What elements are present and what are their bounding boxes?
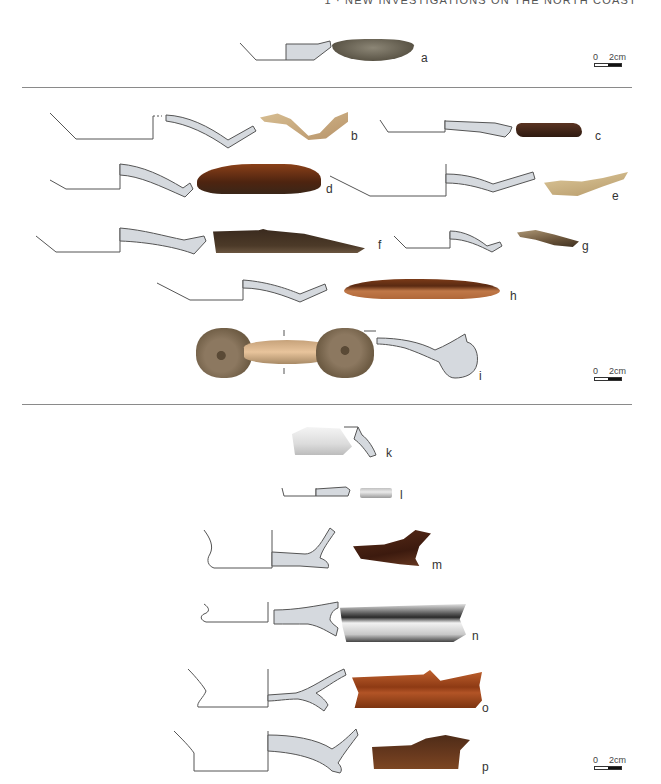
- photo-a: [332, 39, 414, 61]
- scale-bar-top: 0 2cm: [593, 52, 633, 72]
- photo-h: [344, 279, 500, 299]
- label-m: m: [432, 558, 442, 572]
- profile-drawing-i: [375, 330, 485, 380]
- section-divider: [22, 87, 632, 88]
- profile-drawing-k: [342, 425, 382, 459]
- profile-drawing-c: [380, 118, 520, 144]
- label-a: a: [421, 51, 428, 65]
- profile-drawing-g: [392, 226, 512, 254]
- running-head: 1 · NEW INVESTIGATIONS ON THE NORTH COAS…: [324, 0, 637, 6]
- scale-bar-middle: 0 2cm: [593, 366, 633, 386]
- label-l: l: [400, 488, 403, 502]
- label-k: k: [386, 446, 392, 460]
- photo-d: [197, 164, 321, 194]
- photo-c: [516, 123, 582, 137]
- photo-f: [213, 229, 365, 253]
- label-e: e: [612, 189, 619, 203]
- label-g: g: [582, 239, 589, 253]
- section-divider: [22, 404, 632, 405]
- photo-n: [340, 604, 466, 642]
- scale-bar-graphic: [594, 63, 622, 67]
- photo-g: [517, 229, 579, 247]
- scale-bar-graphic: [594, 766, 622, 770]
- profile-drawing-e: [328, 162, 538, 200]
- label-i: i: [479, 369, 482, 383]
- label-f: f: [378, 238, 381, 252]
- photo-o: [352, 670, 482, 708]
- scale-bar-bottom: 0 2cm: [593, 755, 633, 775]
- photo-p: [372, 735, 470, 769]
- photo-b: [260, 112, 348, 140]
- profile-drawing-l: [280, 486, 358, 500]
- label-b: b: [351, 129, 358, 143]
- photo-l: [360, 488, 392, 498]
- profile-drawing-m: [200, 528, 350, 572]
- label-n: n: [472, 629, 479, 643]
- profile-drawing-f: [34, 224, 214, 258]
- profile-drawing-p: [172, 727, 362, 775]
- section-marks-i: [280, 330, 380, 376]
- label-c: c: [595, 129, 601, 143]
- scale-bar-graphic: [594, 377, 622, 381]
- photo-m: [353, 530, 431, 566]
- profile-drawing-b: [48, 108, 258, 148]
- label-p: p: [482, 760, 489, 774]
- profile-drawing-h: [155, 278, 335, 304]
- profile-drawing-n: [196, 602, 346, 642]
- profile-drawing-d: [48, 162, 198, 198]
- label-o: o: [482, 701, 489, 715]
- profile-drawing-o: [186, 667, 346, 713]
- label-h: h: [510, 289, 517, 303]
- profile-drawing-a: [238, 38, 338, 68]
